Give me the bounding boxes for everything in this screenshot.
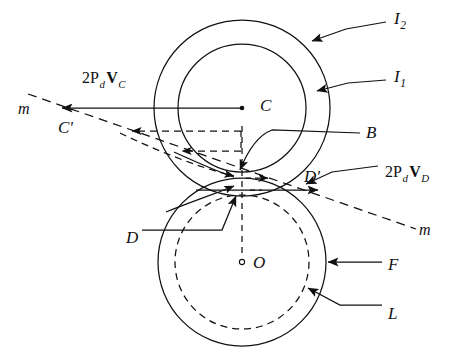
label-C: C — [260, 97, 271, 114]
label-m-left: m — [18, 101, 30, 117]
label-I2: I2 — [394, 10, 406, 31]
vd-vector-symbol: V — [409, 163, 421, 180]
label-L: L — [388, 305, 397, 322]
label-B: B — [366, 124, 376, 141]
label-D-prime: D' — [304, 168, 320, 185]
point-marker-O — [239, 259, 244, 264]
vd-coefficient: 2P — [385, 163, 402, 180]
technical-figure: I2 I1 B C C' m m D D' O F L 2Pd VC 2Pd V… — [0, 0, 453, 360]
label-O: O — [253, 254, 265, 271]
leader-line-I2 — [312, 22, 386, 41]
label-D: D — [126, 229, 138, 246]
vc-coefficient: 2P — [82, 69, 99, 86]
label-m-right: m — [419, 222, 431, 238]
vc-vector-symbol: V — [106, 69, 118, 86]
label-I1: I1 — [394, 68, 406, 89]
vd-sub-d2: D — [421, 172, 429, 184]
label-vector-VC: 2Pd VC — [82, 70, 126, 89]
label-vector-VD: 2Pd VD — [385, 164, 429, 183]
line-m-axis — [28, 94, 416, 229]
leader-line-D — [142, 196, 236, 230]
vc-sub-c: C — [118, 78, 126, 90]
label-F: F — [388, 256, 398, 273]
label-C-prime: C' — [58, 119, 73, 136]
point-marker-C — [240, 106, 245, 111]
arc-arrow-CB — [120, 133, 234, 176]
